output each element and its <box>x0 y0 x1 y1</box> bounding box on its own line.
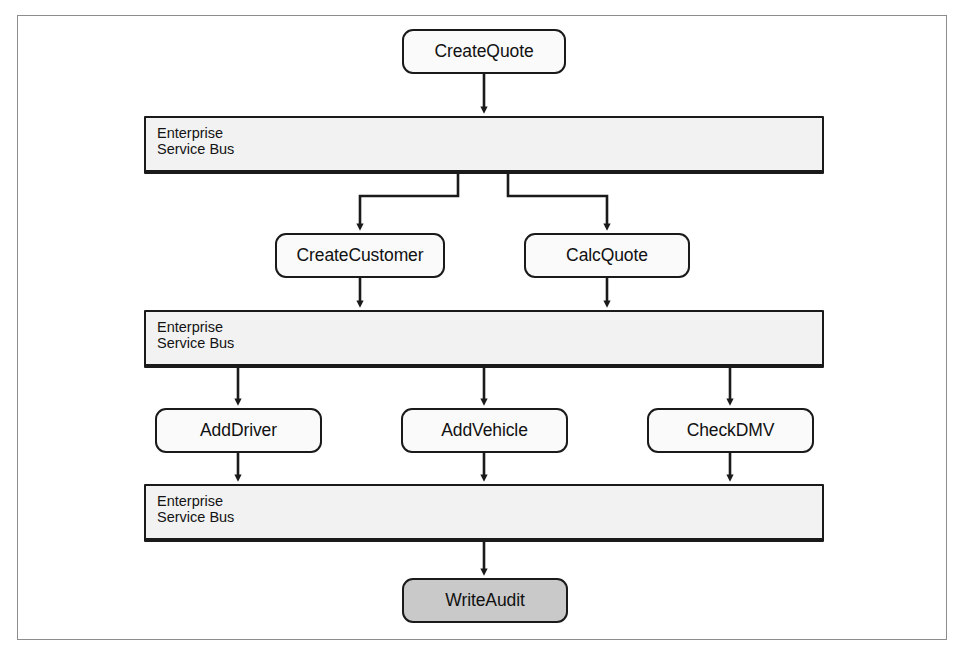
service-bus-3[interactable]: Enterprise Service Bus <box>144 484 824 542</box>
node-create-quote[interactable]: CreateQuote <box>402 29 566 74</box>
node-write-audit[interactable]: WriteAudit <box>402 578 568 623</box>
node-create-customer[interactable]: CreateCustomer <box>275 233 445 278</box>
diagram-figure: Enterprise Service Bus Enterprise Servic… <box>0 0 964 655</box>
service-bus-1-line1: Enterprise <box>157 125 223 142</box>
node-calc-quote[interactable]: CalcQuote <box>524 233 690 278</box>
service-bus-2-line2: Service Bus <box>157 335 234 352</box>
node-check-dmv[interactable]: CheckDMV <box>647 408 814 453</box>
service-bus-3-line2: Service Bus <box>157 509 234 526</box>
node-add-vehicle[interactable]: AddVehicle <box>401 408 568 453</box>
service-bus-1-line2: Service Bus <box>157 141 234 158</box>
service-bus-2[interactable]: Enterprise Service Bus <box>144 310 824 368</box>
node-add-driver[interactable]: AddDriver <box>155 408 322 453</box>
service-bus-2-line1: Enterprise <box>157 319 223 336</box>
connector-esb1-to-create-customer <box>360 174 458 227</box>
service-bus-1[interactable]: Enterprise Service Bus <box>144 116 824 174</box>
service-bus-3-line1: Enterprise <box>157 493 223 510</box>
connector-esb1-to-calc-quote <box>508 174 607 227</box>
